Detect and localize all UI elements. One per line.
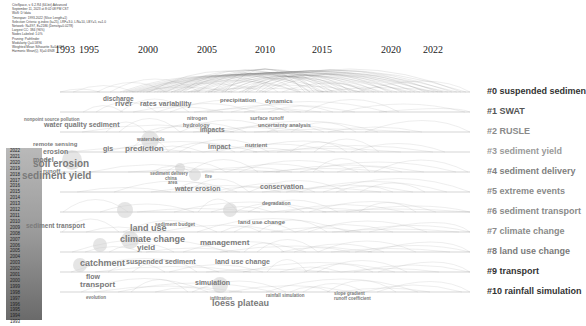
keyword-label[interactable]: evolution [86,295,106,300]
keyword-label[interactable]: rates variability [140,100,191,107]
keyword-label[interactable]: loess plateau [212,298,269,308]
keyword-label[interactable]: river [115,99,132,108]
year-axis: 19931995200020052010201520202022 [0,44,560,60]
keyword-label[interactable]: prediction [125,144,164,153]
keyword-label[interactable]: watersheds [137,136,165,142]
cluster-label[interactable]: #0 suspended sedimen [487,86,586,96]
keyword-label[interactable]: precipitation [220,97,256,103]
cluster-label[interactable]: #6 sediment transport [487,206,581,216]
year-tick: 2022 [423,44,443,55]
keyword-label[interactable]: suspended sediment [126,258,196,265]
year-tick: 2000 [138,44,158,55]
keyword-label[interactable]: land use change [215,258,270,265]
keyword-label[interactable]: remote sensing [33,141,77,147]
keyword-label[interactable]: flow [86,273,100,280]
keyword-label[interactable]: area [168,180,177,185]
keyword-label[interactable]: nutrient [245,142,267,148]
keyword-label[interactable]: soil erosion [33,158,89,169]
year-tick: 2015 [312,44,332,55]
keyword-label[interactable]: catchment [80,258,125,268]
keyword-label[interactable]: management [200,238,249,247]
keyword-label[interactable]: land use change [238,219,285,225]
cluster-label[interactable]: #9 transport [487,266,539,276]
keyword-label[interactable]: transport [80,280,115,289]
cluster-label[interactable]: #8 land use change [487,246,570,256]
cluster-label[interactable]: #10 rainfall simulation [487,286,582,296]
cluster-label[interactable]: #3 sediment yield [487,146,562,156]
year-tick: 2020 [381,44,401,55]
keyword-label[interactable]: water erosion [175,185,221,192]
year-tick: 1995 [79,44,99,55]
keyword-label[interactable]: gis [103,145,113,152]
keyword-label[interactable]: simulation [195,279,230,286]
keyword-label[interactable]: nitrogen [187,115,207,121]
year-tick: 2005 [197,44,217,55]
keyword-label[interactable]: conservation [260,183,304,190]
keyword-label[interactable]: erosion [43,148,68,155]
keyword-label[interactable]: dynamics [265,98,293,104]
cluster-label[interactable]: #2 RUSLE [487,126,530,136]
keyword-label[interactable]: surface runoff [250,115,284,121]
keyword-label[interactable]: sediment budget [155,221,195,227]
keyword-label[interactable]: runoff coefficient [334,296,371,301]
keyword-label[interactable]: degradation [262,200,291,206]
cluster-label[interactable]: #1 SWAT [487,106,525,116]
keyword-label[interactable]: impact [208,143,231,150]
cluster-label[interactable]: #4 sediment delivery [487,166,576,176]
keyword-label[interactable]: uncertainty analysis [258,122,311,128]
keyword-label[interactable]: fire [205,174,212,179]
year-tick: 1993 [55,44,75,55]
keyword-label[interactable]: sediment transport [26,222,85,229]
keyword-label[interactable]: sediment yield [22,170,91,181]
cluster-label[interactable]: #5 extreme events [487,186,565,196]
keyword-label[interactable]: rainfall simulation [266,293,305,298]
legend-year: 1993 [6,319,42,325]
year-tick: 2010 [255,44,275,55]
keyword-label[interactable]: impacts [200,126,225,133]
cluster-label[interactable]: #7 climate change [487,226,565,236]
keyword-label[interactable]: yield [137,243,155,252]
keyword-label[interactable]: water quality sediment [44,121,119,128]
